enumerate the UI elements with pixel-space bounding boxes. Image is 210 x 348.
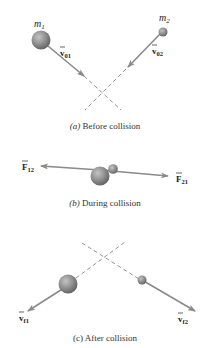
label-f12: F12 — [22, 162, 34, 173]
ball-m2-collision — [108, 164, 118, 174]
ball-m1-collision — [91, 167, 110, 186]
dashed-path-m2 — [85, 69, 126, 110]
label-vf2: vf2 — [178, 314, 188, 325]
velocity-arrow-v01 — [48, 46, 84, 76]
ball-m2 — [159, 28, 168, 37]
label-v02: v02 — [152, 46, 163, 57]
caption-b: (b) During collision — [69, 198, 141, 208]
ball-m1-after — [59, 275, 78, 294]
dashed-path-m1-after — [76, 242, 125, 278]
label-m2: m2 — [159, 12, 170, 25]
ball-m1 — [32, 31, 51, 50]
collision-diagram: m1 m2 v01 v02 (a) Before collision F12 F… — [0, 0, 210, 348]
panel-after-collision: vf1 vf2 (c) After collision — [19, 242, 195, 343]
panel-during-collision: F12 F21 (b) During collision — [22, 161, 188, 208]
panel-before-collision: m1 m2 v01 v02 (a) Before collision — [32, 12, 171, 131]
ball-m2-after — [138, 276, 147, 285]
label-m1: m1 — [34, 18, 45, 31]
caption-a: (a) Before collision — [70, 121, 141, 131]
label-vf1: vf1 — [19, 313, 29, 324]
velocity-arrow-vf2 — [142, 280, 195, 311]
caption-c: (c) After collision — [73, 333, 137, 343]
label-f21: F21 — [176, 174, 188, 185]
label-v01: v01 — [60, 48, 71, 59]
dashed-path-m2-after — [82, 243, 139, 279]
force-arrow-f12 — [41, 166, 100, 170]
